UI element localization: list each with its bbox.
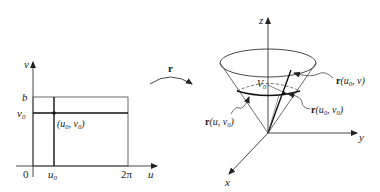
y-axis-label: y [358,131,364,143]
tick-u0: u0 [48,168,58,182]
x-axis [229,133,268,174]
tick-v0: v0 [17,107,26,121]
cone-surface-plot: V0 r(u0, v) r(u0, v0) r(u, v0) z y x [205,14,365,188]
curved-arrow [150,77,192,84]
mapping-label: r [168,62,173,74]
z-axis-label: z [258,14,264,26]
v0-circle-front [237,91,300,96]
parameter-domain-plot: v u 0 b v0 u0 2π (u0, v0) [16,58,157,182]
v0-pointer [268,85,283,92]
callout-r-u-v0: r(u, v0) [205,116,234,128]
point-label: (u0, v0) [57,118,85,130]
tick-2pi: 2π [121,168,133,180]
x-axis-label: x [224,176,230,188]
callout-line-u-v0 [231,97,249,114]
cone-ruling [268,95,279,133]
origin-label: 0 [23,168,29,180]
u0-generator-line [268,70,291,133]
cone-side-right [268,63,316,133]
callout-r-u0-v0: r(u0, v0) [311,104,344,116]
point-u0-v0 [52,111,56,115]
inner-v0-label: V0 [257,78,267,90]
diagram-canvas: v u 0 b v0 u0 2π (u0, v0) r [0,0,380,192]
mapping-arrow: r [150,62,192,84]
callout-r-u0-v: r(u0, v) [336,75,365,87]
callout-line-u0-v0 [288,94,310,109]
tick-b: b [22,91,28,103]
u-axis-label: u [148,168,154,180]
domain-rectangle [33,97,128,166]
v-axis-label: v [24,58,29,70]
v0-circle-back [237,84,300,92]
